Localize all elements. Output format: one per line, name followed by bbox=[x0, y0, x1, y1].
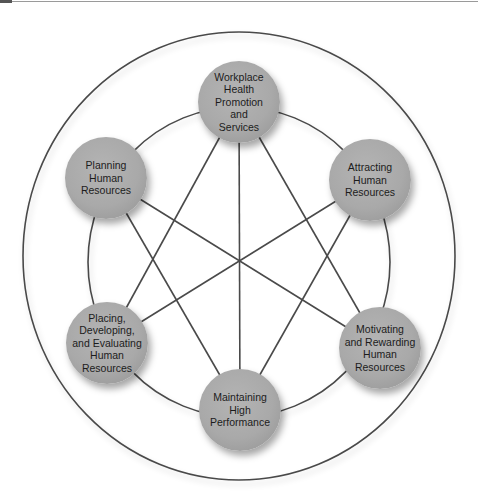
node-label: Maintaining High Performance bbox=[210, 391, 270, 429]
node-placing-developing-evaluating-hr: Placing, Developing, and Evaluating Huma… bbox=[66, 302, 148, 384]
node-workplace-health: Workplace Health Promotion and Services bbox=[198, 61, 280, 143]
node-planning-hr: Planning Human Resources bbox=[65, 137, 147, 219]
node-label: Motivating and Rewarding Human Resources bbox=[345, 323, 416, 373]
node-maintaining-performance: Maintaining High Performance bbox=[199, 369, 281, 451]
node-label: Placing, Developing, and Evaluating Huma… bbox=[72, 312, 141, 375]
node-label: Planning Human Resources bbox=[81, 159, 131, 197]
connection-workplace-maintaining bbox=[239, 102, 240, 410]
node-motivating-rewarding-hr: Motivating and Rewarding Human Resources bbox=[339, 307, 421, 389]
node-label: Workplace Health Promotion and Services bbox=[214, 71, 263, 134]
node-label: Attracting Human Resources bbox=[345, 161, 395, 199]
connection-workplace-motivating bbox=[239, 102, 380, 348]
connection-lines bbox=[106, 102, 380, 410]
node-attracting-hr: Attracting Human Resources bbox=[329, 139, 411, 221]
